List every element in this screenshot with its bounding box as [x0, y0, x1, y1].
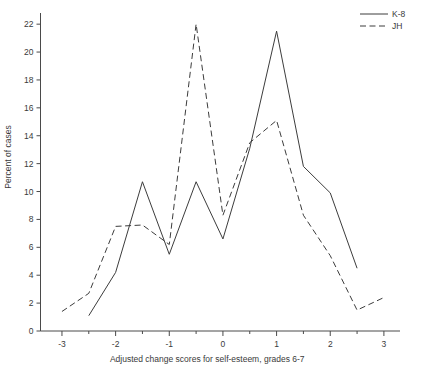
series-line-k-8	[89, 31, 357, 316]
y-tick-label: 18	[24, 75, 34, 85]
series-group	[62, 24, 384, 316]
x-tick-label: 2	[328, 339, 333, 349]
y-axis-title: Percent of cases	[3, 125, 13, 188]
y-tick-label: 6	[29, 242, 34, 252]
x-tick-label: 1	[274, 339, 279, 349]
y-tick-group: 0246810121416182022	[24, 19, 40, 336]
axes-group	[41, 13, 401, 331]
y-tick-label: 4	[29, 270, 34, 280]
y-tick-label: 10	[24, 187, 34, 197]
line-chart: 0246810121416182022 -3-2-10123 K-8JH Adj…	[0, 0, 425, 365]
y-tick-label: 16	[24, 103, 34, 113]
x-tick-label: 0	[221, 339, 226, 349]
series-line-jh	[62, 24, 384, 311]
y-tick-label: 0	[29, 326, 34, 336]
legend: K-8JH	[360, 9, 406, 31]
x-tick-group: -3-2-10123	[58, 331, 386, 349]
x-tick-label: 3	[382, 339, 387, 349]
y-tick-label: 2	[29, 298, 34, 308]
x-tick-label: -3	[58, 339, 66, 349]
y-tick-label: 22	[24, 19, 34, 29]
x-axis-title: Adjusted change scores for self-esteem, …	[110, 354, 305, 364]
y-tick-label: 12	[24, 159, 34, 169]
legend-label-jh: JH	[392, 21, 402, 31]
chart-container: 0246810121416182022 -3-2-10123 K-8JH Adj…	[0, 0, 425, 365]
y-tick-label: 20	[24, 47, 34, 57]
x-tick-label: -2	[112, 339, 120, 349]
y-tick-label: 8	[29, 214, 34, 224]
legend-label-k-8: K-8	[392, 9, 406, 19]
y-tick-label: 14	[24, 131, 34, 141]
x-tick-label: -1	[165, 339, 173, 349]
